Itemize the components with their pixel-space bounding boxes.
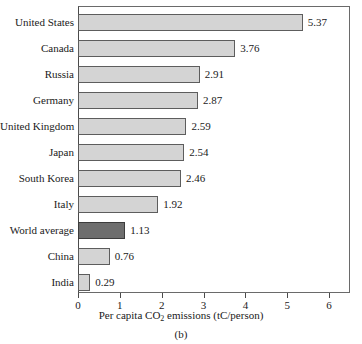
- category-label-world-average: World average: [0, 222, 74, 239]
- x-axis-title: Per capita CO2 emissions (tC/person): [0, 308, 362, 326]
- bars-area: 5.373.762.912.872.592.542.461.921.130.76…: [78, 6, 350, 293]
- bar-value-label: 1.92: [163, 197, 182, 212]
- bar-row: 3.76: [78, 40, 350, 57]
- category-label-south-korea: South Korea: [0, 170, 74, 187]
- figure-panel-b: United StatesCanadaRussiaGermanyUnited K…: [0, 0, 362, 344]
- category-label-germany: Germany: [0, 92, 74, 109]
- x-tick: [204, 293, 205, 298]
- bar-value-label: 2.46: [186, 171, 205, 186]
- bar-row: 2.46: [78, 170, 350, 187]
- bar-south-korea: [78, 170, 181, 187]
- category-label-canada: Canada: [0, 40, 74, 57]
- bar-value-label: 2.91: [205, 67, 224, 82]
- bar-russia: [78, 66, 200, 83]
- bar-row: 1.92: [78, 196, 350, 213]
- bar-value-label: 2.54: [189, 145, 208, 160]
- bar-value-label: 2.87: [203, 93, 222, 108]
- category-label-russia: Russia: [0, 66, 74, 83]
- category-label-italy: Italy: [0, 196, 74, 213]
- bar-row: 1.13: [78, 222, 350, 239]
- category-label-india: India: [0, 274, 74, 291]
- bar-united-kingdom: [78, 118, 186, 135]
- bar-italy: [78, 196, 158, 213]
- bar-row: 5.37: [78, 14, 350, 31]
- bar-japan: [78, 144, 184, 161]
- bar-value-label: 0.76: [115, 249, 134, 264]
- co2-subscript: 2: [160, 314, 164, 323]
- bar-row: 0.76: [78, 248, 350, 265]
- bar-row: 2.54: [78, 144, 350, 161]
- bar-value-label: 5.37: [308, 15, 327, 30]
- x-tick: [287, 293, 288, 298]
- category-label-united-kingdom: United Kingdom: [0, 118, 74, 135]
- bar-value-label: 3.76: [240, 41, 259, 56]
- category-axis-labels: United StatesCanadaRussiaGermanyUnited K…: [0, 6, 74, 293]
- bar-row: 2.87: [78, 92, 350, 109]
- bar-value-label: 1.13: [130, 223, 149, 238]
- x-tick: [162, 293, 163, 298]
- panel-caption: (b): [0, 327, 362, 341]
- bar-row: 2.91: [78, 66, 350, 83]
- x-tick: [245, 293, 246, 298]
- category-label-united-states: United States: [0, 14, 74, 31]
- bar-value-label: 2.59: [191, 119, 210, 134]
- category-label-japan: Japan: [0, 144, 74, 161]
- category-label-china: China: [0, 248, 74, 265]
- bar-row: 2.59: [78, 118, 350, 135]
- bar-germany: [78, 92, 198, 109]
- bar-value-label: 0.29: [95, 275, 114, 290]
- x-tick: [329, 293, 330, 298]
- bar-china: [78, 248, 110, 265]
- bar-india: [78, 274, 90, 291]
- bar-world-average: [78, 222, 125, 239]
- bar-canada: [78, 40, 235, 57]
- x-tick: [120, 293, 121, 298]
- bar-row: 0.29: [78, 274, 350, 291]
- bar-united-states: [78, 14, 303, 31]
- x-tick: [78, 293, 79, 298]
